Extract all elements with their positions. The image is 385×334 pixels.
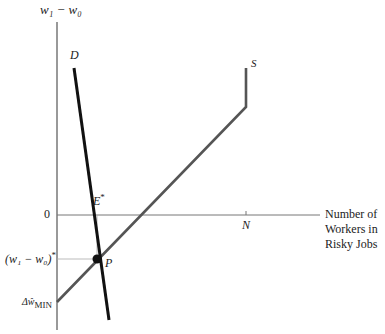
wage-star-label: (w₁ − w₀)* [5, 250, 56, 267]
demand-label: D [70, 48, 79, 63]
supply-label: S [251, 57, 257, 69]
zero-label: 0 [44, 207, 50, 222]
n-label: N [242, 218, 250, 233]
x-axis-label: Number of Workers in Risky Jobs [325, 207, 378, 252]
y-axis-label: w₁ − w₀ [40, 2, 82, 18]
min-wage-label: ΔŵMIN [22, 296, 52, 310]
point-p-label: P [105, 256, 112, 271]
equilibrium-point [93, 255, 102, 264]
equilibrium-e-label: E* [93, 192, 105, 209]
compensating-wage-diagram [0, 0, 385, 334]
supply-curve [57, 68, 246, 302]
